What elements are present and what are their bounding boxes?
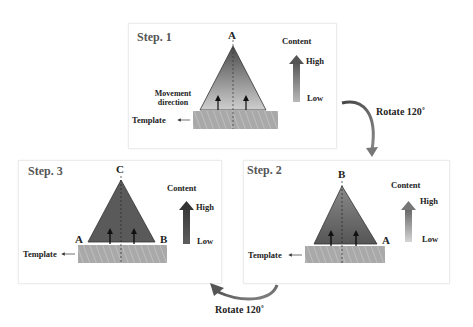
rotate-label-2: Rotate 120˚ (215, 304, 264, 315)
step3-template (78, 245, 167, 263)
step1-low-label: Low (307, 93, 323, 103)
step1-high-label: High (306, 56, 324, 66)
rotate-arrow-1 (342, 102, 378, 157)
movement-direction-label: Movement direction (146, 89, 200, 107)
rotate-label-1: Rotate 120˚ (376, 106, 425, 117)
step3-high-label: High (196, 202, 214, 212)
step1-title: Step. 1 (137, 30, 172, 45)
step1-template-label: Template (132, 115, 166, 125)
step3-apex-label: C (116, 163, 124, 175)
step2-high-label: High (420, 196, 438, 206)
step2-graphic (290, 181, 416, 263)
step2-right-label: A (382, 234, 390, 246)
step2-template-label: Template (248, 250, 282, 260)
step2-triangle (314, 186, 377, 244)
step1-graphic (179, 40, 304, 129)
rotate-arrow-2 (210, 283, 277, 299)
step1-apex-label: A (228, 29, 236, 41)
step2-low-label: Low (422, 234, 438, 244)
step3-low-label: Low (197, 236, 213, 246)
diagram-graphics (0, 0, 473, 327)
step3-template-label: Template (23, 249, 57, 259)
step2-template (305, 246, 385, 263)
step3-triangle (88, 180, 155, 242)
step3-right-label: B (160, 233, 167, 245)
step1-content-label: Content (282, 36, 311, 46)
step3-left-label: A (75, 233, 83, 245)
step1-template (193, 111, 278, 129)
step3-content-label: Content (167, 183, 196, 193)
step3-title: Step. 3 (28, 164, 63, 179)
step2-title: Step. 2 (247, 163, 282, 178)
step2-apex-label: B (338, 168, 345, 180)
step2-content-label: Content (391, 180, 420, 190)
